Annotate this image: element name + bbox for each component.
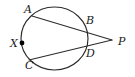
geometry-figure: A B P X D C	[0, 0, 135, 77]
vertex-label-b: B	[86, 15, 94, 26]
vertex-label-p: P	[118, 36, 125, 47]
secant-line-c-d-p	[29, 40, 112, 60]
point-marker-x	[20, 41, 25, 46]
vertex-label-x: X	[10, 38, 18, 49]
vertex-label-c: C	[25, 60, 33, 71]
vertex-label-a: A	[24, 4, 32, 15]
vertex-label-d: D	[86, 48, 95, 59]
geometry-canvas	[0, 0, 135, 77]
secant-line-a-b-p	[32, 16, 112, 40]
